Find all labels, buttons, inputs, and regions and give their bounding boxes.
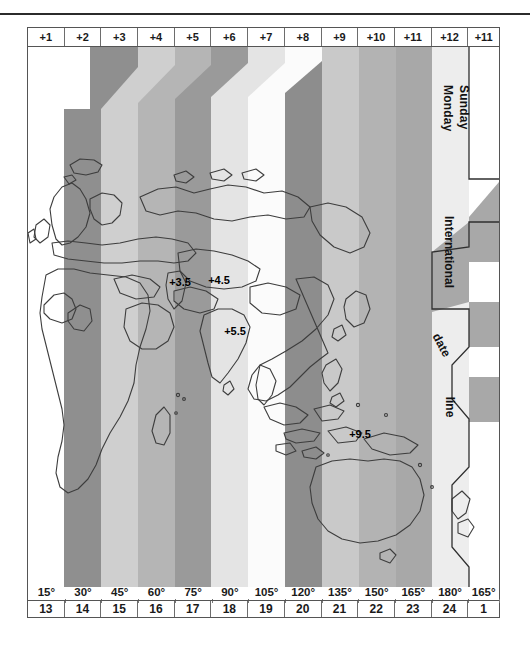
longitude-label-7: 120° — [285, 585, 322, 600]
utc-offset-cell-plus5: +5 — [175, 28, 212, 46]
utc-offset-cell-plus2: +2 — [65, 28, 102, 46]
longitude-label-8: 135° — [322, 585, 359, 600]
longitude-label-10: 165° — [395, 585, 432, 600]
utc-offset-cell-plus11: +11 — [395, 28, 432, 46]
utc-offset-cell-plus10: +10 — [358, 28, 395, 46]
date-line-label-international: International — [442, 216, 456, 288]
hour-cell-19: 19 — [248, 601, 285, 617]
zone-label-iran: +3.5 — [169, 276, 191, 288]
hour-cell-21: 21 — [322, 601, 359, 617]
longitude-label-9: 150° — [358, 585, 395, 600]
utc-offset-cell-plus12: +12 — [432, 28, 469, 46]
utc-offset-cell-plus9: +9 — [322, 28, 359, 46]
utc-offset-cell-plus1: +1 — [28, 28, 65, 46]
hour-cell-17: 17 — [175, 601, 212, 617]
date-line-label-line: line — [443, 397, 457, 418]
hour-cell-14: 14 — [65, 601, 102, 617]
hour-cell-13: 13 — [28, 601, 65, 617]
longitude-label-6: 105° — [248, 585, 285, 600]
time-zone-map-figure: +1+2+3+4+5+6+7+8+9+10+11+12+11 — [27, 27, 500, 618]
hour-axis: 1314151617181920212223241 — [28, 600, 499, 617]
hour-cell-1: 1 — [468, 601, 499, 617]
hour-cell-15: 15 — [101, 601, 138, 617]
hour-cell-22: 22 — [358, 601, 395, 617]
zone-label-afghanistan: +4.5 — [208, 274, 230, 286]
utc-offset-cell-plus8: +8 — [285, 28, 322, 46]
timezone-bands — [28, 47, 499, 587]
zone-label-central-australia: +9.5 — [349, 428, 371, 440]
day-label-sunday: Sunday — [457, 85, 471, 130]
utc-offset-cell-plus7: +7 — [248, 28, 285, 46]
utc-offset-cell-plus6: +6 — [212, 28, 249, 46]
longitude-label-12: 165° — [468, 585, 499, 600]
longitude-label-2: 45° — [101, 585, 138, 600]
longitude-degree-axis: 15°30°45°60°75°90°105°120°135°150°165°18… — [28, 585, 499, 600]
map-canvas: +3.5 +4.5 +5.5 +9.5 Monday Sunday Intern… — [28, 47, 499, 587]
longitude-label-3: 60° — [138, 585, 175, 600]
longitude-label-0: 15° — [28, 585, 65, 600]
hour-cell-16: 16 — [138, 601, 175, 617]
utc-offset-cell-plus3: +3 — [101, 28, 138, 46]
utc-offset-axis: +1+2+3+4+5+6+7+8+9+10+11+12+11 — [28, 28, 499, 47]
hour-cell-18: 18 — [212, 601, 249, 617]
utc-offset-cell-plus4: +4 — [138, 28, 175, 46]
zone-label-india: +5.5 — [224, 325, 246, 337]
axis-tick — [499, 599, 500, 603]
hour-cell-23: 23 — [395, 601, 432, 617]
utc-offset-cell-plus11: +11 — [468, 28, 499, 46]
longitude-label-1: 30° — [65, 585, 102, 600]
top-divider-rule — [0, 13, 530, 15]
hour-cell-24: 24 — [432, 601, 469, 617]
longitude-label-4: 75° — [175, 585, 212, 600]
hour-cell-20: 20 — [285, 601, 322, 617]
longitude-label-5: 90° — [212, 585, 249, 600]
day-label-monday: Monday — [441, 85, 455, 132]
longitude-label-11: 180° — [432, 585, 469, 600]
